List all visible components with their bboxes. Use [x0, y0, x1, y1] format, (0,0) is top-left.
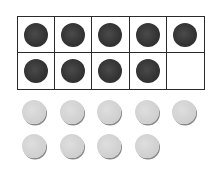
ten-frame-cell	[92, 17, 129, 53]
loose-counters-group	[22, 100, 197, 159]
filled-counter-icon	[136, 59, 160, 83]
filled-counter-icon	[61, 59, 85, 83]
loose-counter-icon	[135, 134, 159, 158]
filled-counter-icon	[24, 59, 48, 83]
ten-frame-cell	[55, 17, 92, 53]
filled-counter-icon	[61, 23, 85, 47]
ten-frame-cell	[18, 53, 55, 89]
loose-counter-icon	[97, 134, 121, 158]
loose-counter-icon	[22, 134, 46, 158]
ten-frame-cell	[130, 17, 167, 53]
ten-frame-cell	[18, 17, 55, 53]
loose-counter-icon	[60, 134, 84, 158]
filled-counter-icon	[98, 23, 122, 47]
loose-counter-icon	[97, 100, 121, 124]
loose-counter-icon	[60, 100, 84, 124]
ten-frame-cell	[167, 53, 204, 89]
ten-frame-cell	[167, 17, 204, 53]
loose-counter-icon	[135, 100, 159, 124]
loose-counter-icon	[22, 100, 46, 124]
ten-frame-cell	[130, 53, 167, 89]
ten-frame	[17, 16, 205, 90]
filled-counter-icon	[98, 59, 122, 83]
filled-counter-icon	[136, 23, 160, 47]
filled-counter-icon	[24, 23, 48, 47]
ten-frame-cell	[92, 53, 129, 89]
filled-counter-icon	[173, 23, 197, 47]
loose-counter-icon	[172, 100, 196, 124]
ten-frame-cell	[55, 53, 92, 89]
